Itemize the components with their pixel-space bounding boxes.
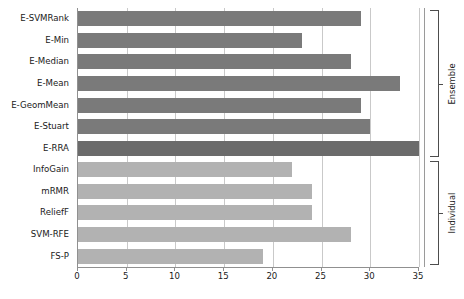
x-tick-label: 15	[208, 272, 238, 281]
bar-row[interactable]	[78, 51, 419, 73]
x-tick-label: 35	[403, 272, 433, 281]
ensemble-bracket-nub	[439, 84, 443, 85]
bar-row[interactable]	[78, 159, 419, 181]
bar-e-mean[interactable]	[78, 76, 400, 91]
x-tick-label: 30	[354, 272, 384, 281]
bar-e-median[interactable]	[78, 54, 351, 69]
bar-e-stuart[interactable]	[78, 119, 370, 134]
x-tick-label: 10	[159, 272, 189, 281]
horizontal-bar-chart: E-SVMRankE-MinE-MedianE-MeanE-GeomMeanE-…	[0, 0, 464, 299]
category-label-e-stuart: E-Stuart	[34, 122, 69, 131]
bar-row[interactable]	[78, 202, 419, 224]
bar-relieff[interactable]	[78, 205, 312, 220]
ensemble-bracket-label: Ensemble	[448, 63, 456, 104]
plot-right-rule	[424, 8, 425, 267]
category-label-e-median: E-Median	[29, 57, 69, 66]
gridline	[419, 8, 420, 267]
category-label-e-rra: E-RRA	[43, 144, 69, 153]
bar-e-geommean[interactable]	[78, 98, 361, 113]
category-label-mrmr: mRMR	[41, 187, 69, 196]
bar-e-rra[interactable]	[78, 141, 419, 156]
category-label-fs-p: FS-P	[50, 252, 69, 261]
category-label-e-geommean: E-GeomMean	[11, 101, 69, 110]
category-label-svm-rfe: SVM-RFE	[31, 230, 69, 239]
bar-mrmr[interactable]	[78, 184, 312, 199]
category-label-e-min: E-Min	[45, 36, 69, 45]
category-label-e-mean: E-Mean	[37, 79, 69, 88]
bar-row[interactable]	[78, 30, 419, 52]
bar-row[interactable]	[78, 116, 419, 138]
x-tick-label: 5	[111, 272, 141, 281]
individual-bracket-nub	[439, 213, 443, 214]
individual-bracket-label: Individual	[448, 193, 456, 234]
bar-svm-rfe[interactable]	[78, 227, 351, 242]
bar-fs-p[interactable]	[78, 249, 263, 264]
category-label-infogain: InfoGain	[33, 165, 69, 174]
x-tick-label: 20	[257, 272, 287, 281]
bar-row[interactable]	[78, 181, 419, 203]
x-tick-label: 25	[306, 272, 336, 281]
bar-e-svmrank[interactable]	[78, 11, 361, 26]
plot-area	[77, 8, 419, 268]
ensemble-bracket	[430, 10, 439, 157]
bar-row[interactable]	[78, 224, 419, 246]
category-axis-labels: E-SVMRankE-MinE-MedianE-MeanE-GeomMeanE-…	[0, 8, 73, 267]
bar-row[interactable]	[78, 245, 419, 267]
bar-row[interactable]	[78, 73, 419, 95]
individual-bracket	[430, 161, 439, 265]
x-tick-label: 0	[62, 272, 92, 281]
bar-row[interactable]	[78, 8, 419, 30]
category-label-relieff: ReliefF	[40, 208, 69, 217]
bar-row[interactable]	[78, 94, 419, 116]
category-label-e-svmrank: E-SVMRank	[20, 14, 69, 23]
bar-infogain[interactable]	[78, 162, 292, 177]
bar-e-min[interactable]	[78, 33, 302, 48]
bar-row[interactable]	[78, 138, 419, 160]
